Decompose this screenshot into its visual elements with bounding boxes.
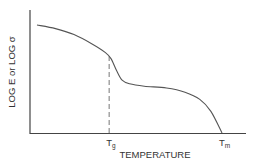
modulus-curve <box>37 25 222 133</box>
x-axis-label: TEMPERATURE <box>119 149 190 160</box>
chart: TgTm TEMPERATURE LOG E or LOG σ <box>0 0 256 168</box>
x-tick-label-Tm: Tm <box>219 137 230 149</box>
x-tick-label-Tg: Tg <box>106 137 116 150</box>
y-axis-label: LOG E or LOG σ <box>6 36 17 107</box>
